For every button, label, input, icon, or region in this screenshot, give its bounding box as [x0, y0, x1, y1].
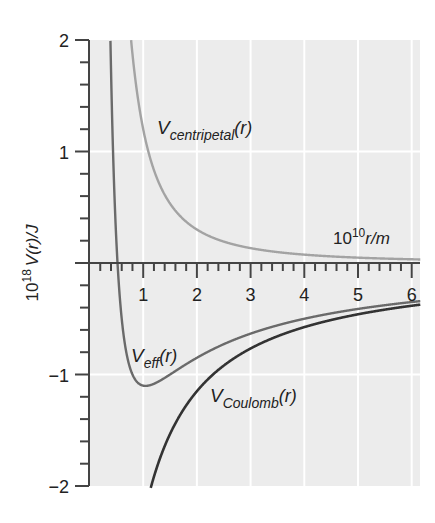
x-tick-label: 2 [192, 285, 202, 305]
x-tick-label: 1 [138, 285, 148, 305]
y-tick-label: 1 [59, 143, 69, 163]
y-tick-label: 2 [59, 31, 69, 51]
y-tick-label: −1 [48, 366, 69, 386]
potential-energy-chart: 12345621−1−2 1018V(r)/J 1010r/m Vcentrip… [0, 0, 435, 523]
x-tick-label: 3 [246, 285, 256, 305]
x-tick-label: 5 [353, 285, 363, 305]
y-tick-label: −2 [48, 477, 69, 497]
x-tick-label: 4 [299, 285, 309, 305]
y-axis-label: 1018V(r)/J [20, 224, 42, 301]
x-tick-label: 6 [407, 285, 417, 305]
